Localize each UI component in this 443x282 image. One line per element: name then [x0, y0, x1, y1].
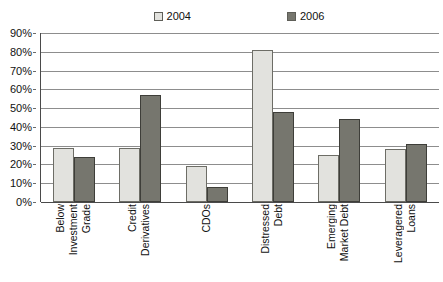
x-axis-category: DistressedDebt	[239, 204, 305, 282]
y-axis-tick-label: 10%	[10, 178, 32, 189]
x-axis-category-line: Derivatives	[139, 204, 152, 256]
y-axis-tick-label: 70%	[10, 65, 32, 76]
x-axis-category-line: Leveragered	[392, 204, 405, 263]
y-axis-tick-mark	[33, 52, 36, 53]
x-axis-category-line: Market Debt	[338, 204, 351, 261]
bar-2006	[207, 187, 228, 202]
bar-group	[174, 33, 240, 202]
bar-chart: 2004 2006 90%80%70%60%50%40%30%20%10%0% …	[0, 0, 443, 282]
bar-2006	[339, 119, 360, 202]
bar-2004	[385, 149, 406, 202]
bar-group	[373, 33, 439, 202]
bar-2006	[140, 95, 161, 202]
x-axis-category-line: Loans	[405, 204, 418, 233]
axis-baseline	[41, 202, 439, 203]
bar-2006	[273, 112, 294, 202]
y-axis-tick-label: 90%	[10, 28, 32, 39]
bar-2004	[119, 148, 140, 202]
legend-swatch-2004	[154, 12, 163, 21]
x-axis-category: CreditDerivatives	[106, 204, 172, 282]
bar-2006	[406, 144, 427, 202]
bar-group	[41, 33, 107, 202]
bar-2004	[53, 148, 74, 202]
legend-swatch-2006	[287, 12, 296, 21]
x-axis-category: BelowInvestmentGrade	[40, 204, 106, 282]
bar-group	[240, 33, 306, 202]
x-axis-category-line: Credit	[126, 204, 139, 232]
y-axis-tick-mark	[33, 127, 36, 128]
x-axis-category-line: Grade	[80, 204, 93, 233]
x-axis-labels: BelowInvestmentGradeCreditDerivativesCDO…	[40, 204, 438, 282]
x-axis-category: LeverageredLoans	[372, 204, 438, 282]
bar-groups	[41, 33, 439, 202]
legend-label-2006: 2006	[300, 11, 324, 22]
y-axis-tick-label: 20%	[10, 159, 32, 170]
y-axis-tick-label: 30%	[10, 140, 32, 151]
y-axis-tick-mark	[33, 71, 36, 72]
bar-2004	[318, 155, 339, 202]
x-axis-category-line: CDOs	[199, 204, 212, 233]
bar-group	[107, 33, 173, 202]
y-axis-tick-label: 0%	[16, 197, 32, 208]
bar-group	[306, 33, 372, 202]
x-axis-category-line: Distressed	[259, 204, 272, 254]
x-axis-category-line: Emerging	[325, 204, 338, 249]
bar-2006	[74, 157, 95, 202]
y-axis-tick-mark	[33, 164, 36, 165]
y-axis-tick-mark	[33, 146, 36, 147]
y-axis-tick-label: 80%	[10, 46, 32, 57]
y-axis-tick-label: 60%	[10, 84, 32, 95]
x-axis-category-line: Debt	[272, 204, 285, 226]
x-axis-category-line: Below	[54, 204, 67, 233]
bar-2004	[252, 50, 273, 202]
y-axis-tick-mark	[33, 89, 36, 90]
plot-area	[40, 33, 439, 202]
legend-item-2006: 2006	[287, 11, 324, 22]
legend-label-2004: 2004	[167, 11, 191, 22]
bar-2004	[186, 166, 207, 202]
x-axis-category-line: Investment	[67, 204, 80, 255]
x-axis-category: CDOs	[173, 204, 239, 282]
y-axis-tick-label: 40%	[10, 121, 32, 132]
legend-item-2004: 2004	[154, 11, 191, 22]
y-axis: 90%80%70%60%50%40%30%20%10%0%	[0, 33, 36, 202]
chart-legend: 2004 2006	[40, 6, 438, 26]
y-axis-tick-mark	[33, 108, 36, 109]
y-axis-tick-label: 50%	[10, 103, 32, 114]
y-axis-tick-mark	[33, 183, 36, 184]
y-axis-tick-mark	[33, 33, 36, 34]
y-axis-tick-mark	[33, 202, 36, 203]
x-axis-category: EmergingMarket Debt	[305, 204, 371, 282]
